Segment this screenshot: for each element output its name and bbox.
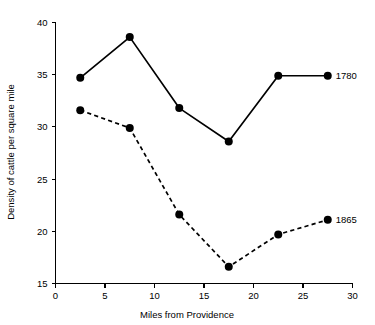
data-point: [274, 230, 282, 238]
y-tick-group: 152025303540: [37, 17, 56, 289]
chart-canvas: 152025303540 051015202530 17801865 Miles…: [0, 0, 375, 325]
series-line-1865: [80, 110, 328, 267]
data-point: [324, 72, 332, 80]
series-label-1780: 1780: [336, 70, 357, 81]
data-point: [76, 106, 84, 114]
x-tick-group: 051015202530: [53, 284, 358, 301]
series-line-1780: [80, 37, 328, 141]
data-point: [126, 124, 134, 132]
y-tick-label: 35: [37, 69, 48, 80]
x-tick-label: 10: [149, 290, 160, 301]
data-point: [126, 33, 134, 41]
y-axis-title: Density of cattle per square mile: [5, 84, 16, 220]
data-point: [225, 263, 233, 271]
data-point: [76, 74, 84, 82]
x-tick-label: 5: [102, 290, 107, 301]
y-tick-label: 20: [37, 226, 48, 237]
data-series-layer: 17801865: [76, 33, 357, 271]
x-tick-label: 15: [199, 290, 210, 301]
x-axis-title: Miles from Providence: [140, 309, 234, 320]
series-1780: 1780: [76, 33, 357, 145]
y-tick-label: 25: [37, 174, 48, 185]
data-point: [274, 72, 282, 80]
y-tick-label: 15: [37, 278, 48, 289]
x-tick-label: 0: [53, 290, 58, 301]
x-tick-label: 25: [298, 290, 309, 301]
cattle-density-line-chart: 152025303540 051015202530 17801865 Miles…: [0, 0, 375, 325]
series-1865: 1865: [76, 106, 357, 271]
y-tick-label: 30: [37, 121, 48, 132]
x-tick-label: 30: [347, 290, 358, 301]
y-axis: 152025303540: [37, 17, 56, 289]
data-point: [175, 104, 183, 112]
data-point: [225, 138, 233, 146]
x-axis: 051015202530: [53, 284, 358, 301]
x-tick-label: 20: [248, 290, 259, 301]
data-point: [324, 216, 332, 224]
y-tick-label: 40: [37, 17, 48, 28]
series-label-1865: 1865: [336, 214, 357, 225]
data-point: [175, 211, 183, 219]
